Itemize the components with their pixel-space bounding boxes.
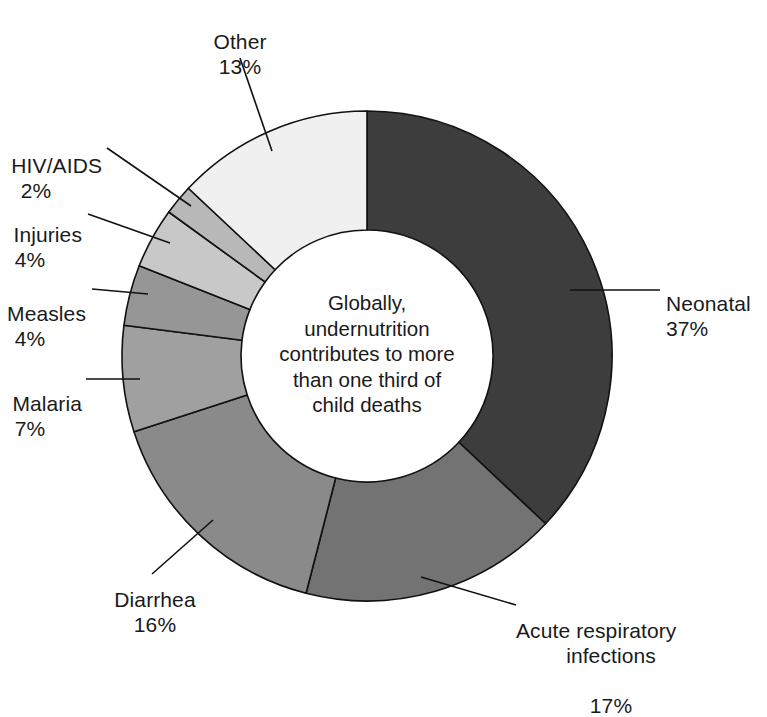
callout-malaria-value: 7%: [0, 416, 82, 441]
callout-measles-value: 4%: [0, 326, 86, 351]
callout-measles-label: Measles: [7, 302, 86, 325]
callout-hivaids-value: 2%: [0, 178, 102, 203]
callout-acute-respiratory-value: 17%: [516, 693, 706, 717]
center-annotation-line-4: than one third of: [247, 367, 487, 393]
center-annotation-line-1: Globally,: [247, 290, 487, 316]
callout-injuries-value: 4%: [0, 247, 82, 272]
callout-malaria-label: Malaria: [12, 392, 82, 415]
callout-hivaids-label: HIV/AIDS: [11, 154, 102, 177]
center-annotation-line-3: contributes to more: [247, 341, 487, 367]
center-annotation-line-5: child deaths: [247, 392, 487, 418]
callout-other: Other 13%: [176, 4, 304, 104]
callout-neonatal: Neonatal 37%: [666, 266, 751, 366]
callout-acute-respiratory-label-2: infections: [516, 643, 706, 668]
callout-neonatal-label: Neonatal: [666, 292, 751, 315]
callout-diarrhea-label: Diarrhea: [114, 588, 195, 611]
callout-other-label: Other: [213, 30, 266, 53]
callout-other-value: 13%: [176, 54, 304, 79]
callout-hivaids: HIV/AIDS 2%: [0, 128, 102, 228]
callout-diarrhea-value: 16%: [60, 612, 250, 637]
leader-line-hivaids: [107, 148, 191, 206]
center-annotation-line-2: undernutrition: [247, 316, 487, 342]
callout-neonatal-value: 37%: [666, 316, 751, 341]
callout-malaria: Malaria 7%: [0, 366, 82, 466]
callout-acute-respiratory-label: Acute respiratory: [516, 619, 676, 642]
center-annotation: Globally, undernutrition contributes to …: [247, 290, 487, 418]
callout-acute-respiratory: Acute respiratory infections 17%: [516, 593, 736, 717]
callout-diarrhea: Diarrhea 16%: [60, 562, 250, 662]
